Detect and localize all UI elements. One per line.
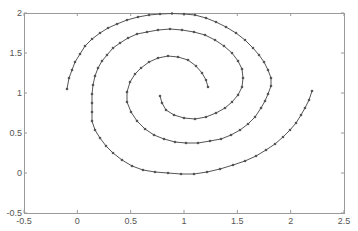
data-point-marker (231, 101, 234, 104)
data-point-marker (247, 123, 250, 126)
y-axis: -0.500.511.52 (6, 8, 344, 218)
data-point-marker (219, 168, 222, 171)
data-point-marker (167, 172, 170, 175)
data-point-marker (136, 33, 139, 36)
data-point-marker (134, 73, 137, 76)
data-point-marker (232, 164, 235, 167)
data-point-marker (260, 107, 263, 110)
data-point-marker (183, 117, 186, 120)
data-point-marker (163, 138, 166, 141)
data-point-marker (231, 52, 234, 55)
data-point-marker (173, 114, 176, 117)
data-point-marker (311, 90, 314, 93)
data-point-marker (308, 99, 311, 102)
data-point-marker (97, 67, 100, 70)
data-point-marker (255, 155, 258, 158)
data-point-marker (92, 84, 95, 87)
data-point-marker (267, 93, 270, 96)
data-point-marker (215, 112, 218, 115)
data-point-marker (237, 60, 240, 63)
x-tick-label: 0.5 (124, 216, 137, 226)
data-point-marker (194, 118, 197, 121)
data-point-marker (157, 29, 160, 32)
data-point-marker (101, 60, 104, 63)
data-point-marker (214, 39, 217, 42)
data-point-marker (254, 116, 257, 119)
data-point-marker (159, 95, 162, 98)
data-point-marker (241, 68, 244, 71)
data-point-marker (207, 86, 210, 89)
data-point-marker (71, 69, 74, 72)
plot-frame (25, 14, 345, 214)
data-point-marker (94, 129, 97, 132)
data-point-marker (181, 29, 184, 32)
data-point-marker (230, 134, 233, 137)
data-point-marker (119, 42, 122, 45)
data-point-marker (237, 94, 240, 97)
data-point-marker (180, 173, 183, 176)
x-tick-label: 1.5 (231, 216, 244, 226)
data-point-marker (225, 26, 228, 29)
y-tick-label: 0.5 (9, 128, 22, 138)
data-point-marker (194, 14, 197, 17)
data-point-marker (84, 45, 87, 48)
data-point-marker (146, 31, 149, 34)
x-tick-label: 2.5 (338, 216, 351, 226)
data-point-marker (304, 107, 307, 110)
data-point-marker (157, 57, 160, 60)
data-point-marker (289, 129, 292, 132)
data-point-marker (136, 120, 139, 123)
data-point-marker (112, 47, 115, 50)
data-point-marker (79, 53, 82, 56)
data-point-marker (171, 12, 174, 15)
data-point-marker (68, 77, 71, 80)
data-point-marker (220, 138, 223, 141)
x-tick-label: 1 (181, 216, 186, 226)
data-point-marker (142, 169, 145, 172)
data-point-marker (99, 137, 102, 140)
y-tick-label: 1.5 (9, 48, 22, 58)
x-tick-label: 2 (288, 216, 293, 226)
x-tick-label: 0 (75, 216, 80, 226)
data-point-marker (193, 31, 196, 34)
data-point-marker (91, 120, 94, 123)
data-point-marker (300, 114, 303, 117)
spiral-2-line (92, 29, 312, 174)
data-point-marker (169, 28, 172, 31)
data-point-marker (177, 56, 180, 59)
data-point-marker (274, 143, 277, 146)
data-point-marker (270, 77, 273, 80)
data-point-marker (223, 45, 226, 48)
data-point-marker (107, 27, 110, 30)
data-point-marker (112, 152, 115, 155)
spiral-chart: -0.500.511.522.5 -0.500.511.52 (0, 0, 358, 231)
y-tick-label: 1 (17, 88, 22, 98)
data-point-marker (205, 17, 208, 20)
data-point-marker (74, 61, 77, 64)
data-point-marker (144, 128, 147, 131)
spiral-1-line (67, 14, 271, 144)
y-tick-label: 0 (17, 168, 22, 178)
data-point-marker (106, 54, 109, 57)
data-point-marker (239, 129, 242, 132)
data-point-marker (264, 100, 267, 103)
data-point-marker (235, 32, 238, 35)
data-point-marker (201, 72, 204, 75)
data-point-marker (129, 81, 132, 84)
data-point-marker (265, 149, 268, 152)
data-point-marker (204, 34, 207, 37)
data-point-marker (224, 107, 227, 110)
data-point-marker (99, 32, 102, 35)
data-point-marker (295, 122, 298, 125)
data-point-marker (91, 102, 94, 105)
data-point-marker (116, 23, 119, 26)
data-point-marker (165, 109, 168, 112)
data-point-marker (137, 16, 140, 19)
data-point-marker (91, 38, 94, 41)
data-point-marker (244, 39, 247, 42)
data-point-marker (126, 91, 129, 94)
data-point-marker (244, 160, 247, 163)
data-point-marker (167, 55, 170, 58)
y-tick-label: 2 (17, 8, 22, 18)
data-point-marker (282, 136, 285, 139)
